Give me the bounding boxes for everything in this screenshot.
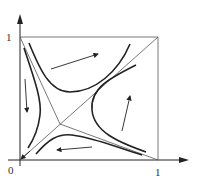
- trajectories: [24, 43, 146, 155]
- arrow-origin-icon: [21, 151, 30, 159]
- phase-diagram: 1 0 1: [0, 0, 200, 189]
- arrow-up-right-icon: [51, 54, 98, 69]
- x-tick-0-label: 0: [8, 164, 14, 176]
- y-axis-arrow-icon: [17, 14, 23, 24]
- arrow-left-icon: [57, 147, 92, 150]
- x-axis-arrow-icon: [179, 157, 189, 163]
- x-tick-1-label: 1: [155, 166, 161, 178]
- arrow-down-icon: [25, 79, 27, 112]
- trajectory-top: [29, 43, 130, 92]
- diagonal: [20, 37, 158, 160]
- y-tick-1-label: 1: [6, 31, 12, 43]
- arrow-up-icon: [122, 96, 130, 131]
